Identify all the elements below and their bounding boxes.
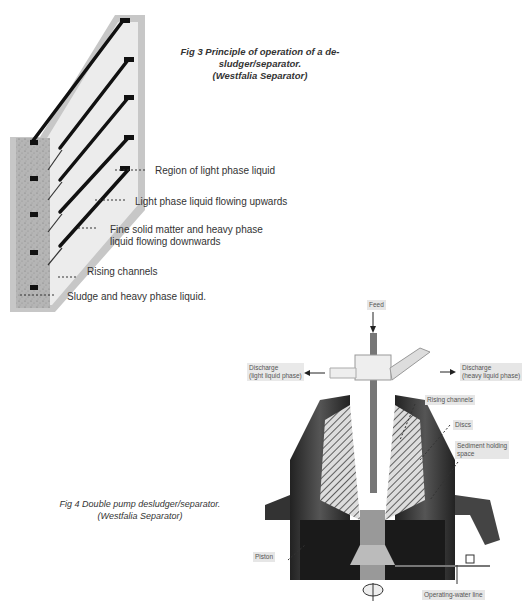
tag-discharge-heavy-line1: Discharge (462, 364, 520, 372)
fig4-caption-line2: (Westfalia Separator) (40, 510, 240, 522)
tag-piston: Piston (253, 552, 275, 562)
tag-sediment-holding-space: Sediment holding space (455, 441, 509, 459)
tag-feed: Feed (367, 300, 386, 310)
tag-discharge-light-line2: (light liquid phase) (249, 372, 302, 380)
tag-operating-water-line: Operating-water line (422, 590, 485, 600)
tag-sediment-line1: Sediment holding (457, 442, 507, 450)
fig4-caption: Fig 4 Double pump desludger/separator. (… (40, 498, 240, 522)
fig4-caption-line1: Fig 4 Double pump desludger/separator. (40, 498, 240, 510)
tag-rising-channels: Rising channels (425, 395, 475, 405)
tag-discs: Discs (453, 420, 473, 430)
tag-discharge-light-line1: Discharge (249, 364, 302, 372)
tag-discharge-light: Discharge (light liquid phase) (247, 363, 304, 381)
tag-discharge-heavy-line2: (heavy liquid phase) (462, 372, 520, 380)
tag-discharge-heavy: Discharge (heavy liquid phase) (460, 363, 522, 381)
tag-sediment-line2: space (457, 450, 507, 458)
